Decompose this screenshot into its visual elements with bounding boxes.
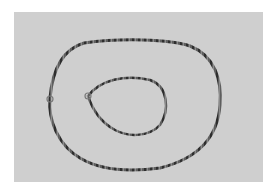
necklaces-illustration	[0, 0, 277, 194]
outer-necklace	[50, 40, 221, 170]
inner-necklace	[88, 78, 166, 135]
